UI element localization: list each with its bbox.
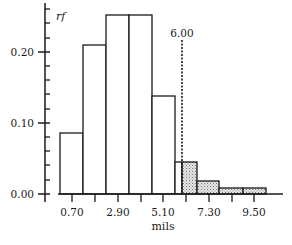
y-axis-label: rf <box>56 10 67 23</box>
x-tick-label: 7.30 <box>197 206 220 218</box>
histogram-chart: 0.00 0.10 0.20 rf 6.00 0.70 2.90 5.10 <box>0 0 292 245</box>
y-tick-label: 0.20 <box>11 46 34 58</box>
bar-1.80 <box>83 45 106 194</box>
y-axis: 0.00 0.10 0.20 rf <box>11 3 68 202</box>
bar-9.50 <box>243 188 266 194</box>
x-axis-label: mils <box>151 220 174 233</box>
bar-5.10 <box>152 96 175 194</box>
x-tick-label: 2.90 <box>106 206 129 218</box>
x-axis: 0.70 2.90 5.10 7.30 9.50 mils <box>58 194 283 233</box>
bar-7.30 <box>197 181 219 194</box>
y-tick-label: 0.10 <box>11 117 34 129</box>
bars <box>60 15 266 194</box>
bar-2.90 <box>106 15 129 194</box>
x-tick-label: 0.70 <box>60 206 83 218</box>
bar-4.00 <box>129 15 152 194</box>
y-tick-label: 0.00 <box>11 188 34 200</box>
bar-6.20-shaded <box>182 162 197 194</box>
bar-8.40 <box>219 188 243 194</box>
bar-6.20-unshaded <box>175 162 182 194</box>
cutoff-label: 6.00 <box>170 27 193 39</box>
bar-0.70 <box>60 133 83 194</box>
x-tick-label: 5.10 <box>151 206 174 218</box>
x-tick-label: 9.50 <box>242 206 265 218</box>
